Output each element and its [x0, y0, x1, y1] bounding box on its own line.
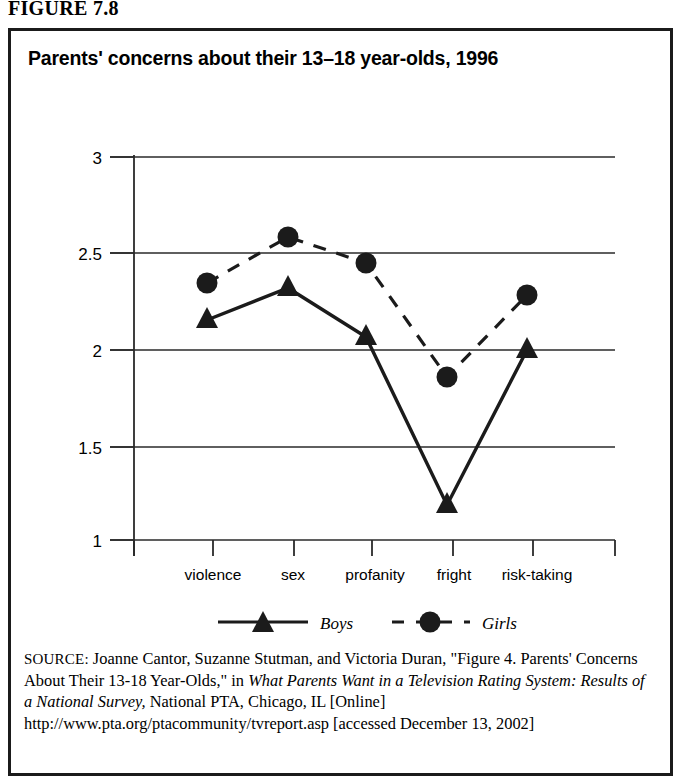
source-note: SOURCE: Joanne Cantor, Suzanne Stutman, … — [24, 648, 652, 735]
x-tick-label-risk-taking: risk-taking — [502, 566, 573, 583]
y-axis-ticks — [110, 157, 134, 540]
x-axis-ticks — [134, 540, 533, 556]
x-tick-label-violence: violence — [185, 566, 242, 583]
data-point-boys-profanity — [355, 324, 377, 345]
y-tick-label-1: 1 — [93, 532, 102, 551]
source-label: SOURCE: — [24, 651, 89, 667]
data-point-boys-fright — [436, 492, 458, 513]
data-point-boys-risk-taking — [516, 337, 538, 358]
data-point-girls-profanity — [356, 253, 377, 274]
series-markers-girls — [197, 227, 538, 388]
y-tick-label-3: 3 — [93, 149, 102, 168]
series-markers-boys — [196, 275, 538, 513]
x-tick-label-profanity: profanity — [345, 566, 405, 583]
x-tick-label-sex: sex — [281, 566, 305, 583]
legend-marker-girls — [420, 612, 441, 633]
data-point-girls-risk-taking — [517, 285, 538, 306]
chart-legend: Boys Girls — [218, 611, 517, 633]
data-point-girls-fright — [437, 367, 458, 388]
series-line-boys — [207, 288, 527, 505]
legend-label-girls: Girls — [482, 614, 517, 633]
data-point-girls-sex — [278, 227, 299, 248]
data-point-girls-violence — [197, 273, 218, 294]
x-tick-label-fright: fright — [437, 566, 472, 583]
legend-label-boys: Boys — [320, 614, 353, 633]
y-tick-label-1-5: 1.5 — [78, 439, 102, 458]
data-point-boys-sex — [277, 275, 299, 296]
y-tick-label-2: 2 — [93, 342, 102, 361]
y-tick-label-2-5: 2.5 — [78, 245, 102, 264]
y-gridlines — [110, 157, 615, 540]
